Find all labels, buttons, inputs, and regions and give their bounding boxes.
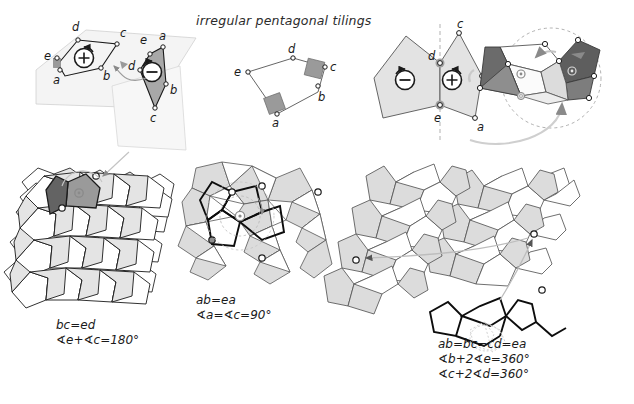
vertex-b-right: [164, 82, 168, 86]
label-d-3: d: [428, 49, 436, 63]
vertex-e-mid: [246, 70, 250, 74]
vertex-d-right: [138, 68, 142, 72]
node-3: [505, 61, 510, 66]
node-center-dot: [520, 95, 523, 98]
caption-column-3: ab=bc=cd=ea ∢b+2∢e=360° ∢c+2∢d=360°: [438, 337, 530, 382]
caption-column-1: bc=ed ∢e+∢c=180°: [56, 318, 139, 348]
caption-2-line-1: ab=ea: [196, 293, 271, 308]
label-c-right: c: [150, 111, 157, 125]
rotation-center-left-dot: [520, 73, 523, 76]
vertex-c-3: [457, 31, 462, 36]
tiling-ab-bc-cd-ea: [324, 164, 580, 352]
label-c-3: c: [457, 17, 464, 31]
construction-pentagon-two-right-angles: d c b a e: [234, 42, 337, 130]
label-a-3: a: [477, 120, 484, 134]
label-b-left: b: [103, 69, 110, 83]
rotation-center-right-dot: [571, 70, 574, 73]
node-4: [556, 58, 561, 63]
vertex-a-left: [58, 68, 62, 72]
tiling-cairo-like: [178, 162, 332, 284]
label-a-right: a: [159, 29, 166, 43]
vertex-a-right: [161, 45, 165, 49]
translation-node-left: [353, 257, 359, 263]
caption-3-line-3: ∢c+2∢d=360°: [438, 367, 530, 382]
label-e-3: e: [434, 111, 441, 125]
label-c-left: c: [120, 26, 127, 40]
zoom-link-arrow: [103, 152, 129, 176]
tiling-bc-ed: [4, 152, 174, 308]
vertex-c-left: [115, 42, 119, 46]
cluster-node-5: [315, 189, 321, 195]
right-angle-marker-c: [304, 58, 325, 79]
vertex-e-3: [438, 103, 443, 108]
highlight-rotation-dot: [78, 192, 81, 195]
vertex-c-right: [153, 106, 157, 110]
label-b-mid: b: [318, 90, 325, 104]
construction-pentagon-pair-mirror-rotation: c b a d e: [374, 17, 494, 140]
caption-3-line-1: ab=bc=cd=ea: [438, 337, 530, 352]
cluster-node-3: [209, 237, 215, 243]
label-e-left: e: [44, 49, 51, 63]
pentagonal-tilings-figure: irregular pentagonal tilings: [0, 0, 634, 404]
construction-3d-fold-cluster: [470, 28, 601, 144]
caption-1-line-2: ∢e+∢c=180°: [56, 333, 139, 348]
vertex-d-left: [76, 38, 80, 42]
label-a-mid: a: [272, 116, 279, 130]
label-e-mid: e: [234, 65, 241, 79]
caption-1-line-1: bc=ed: [56, 318, 139, 333]
label-b-right: b: [170, 83, 177, 97]
caption-3-line-2: ∢b+2∢e=360°: [438, 352, 530, 367]
vertex-c-mid: [323, 65, 327, 69]
label-c-mid: c: [330, 60, 337, 74]
translation-node-lower: [539, 287, 545, 293]
cluster-node-1: [229, 189, 235, 195]
label-d-left: d: [72, 20, 80, 34]
vertex-e-right: [148, 52, 152, 56]
caption-column-2: ab=ea ∢a=∢c=90°: [196, 293, 271, 323]
label-a-left: a: [53, 73, 60, 87]
node-1: [542, 41, 547, 46]
node-6: [591, 73, 596, 78]
fourfold-center-dot: [238, 214, 241, 217]
node-5: [477, 85, 482, 90]
node-2: [575, 37, 580, 42]
label-e-right: e: [140, 33, 147, 47]
vertex-d-mid: [291, 56, 295, 60]
node-7: [586, 95, 591, 100]
vertex-d-3: [438, 61, 443, 66]
highlight-node-bottom: [59, 205, 65, 211]
label-d-right: d: [128, 59, 136, 73]
translation-node-right: [531, 231, 537, 237]
construction-pentagon-pair-on-folded-planes: d c b a e a b c d e: [36, 20, 196, 150]
vertex-b-mid: [316, 84, 320, 88]
vertex-e-left: [55, 56, 59, 60]
caption-2-line-2: ∢a=∢c=90°: [196, 308, 271, 323]
cluster-node-4: [259, 255, 265, 261]
label-d-mid: d: [288, 42, 296, 56]
